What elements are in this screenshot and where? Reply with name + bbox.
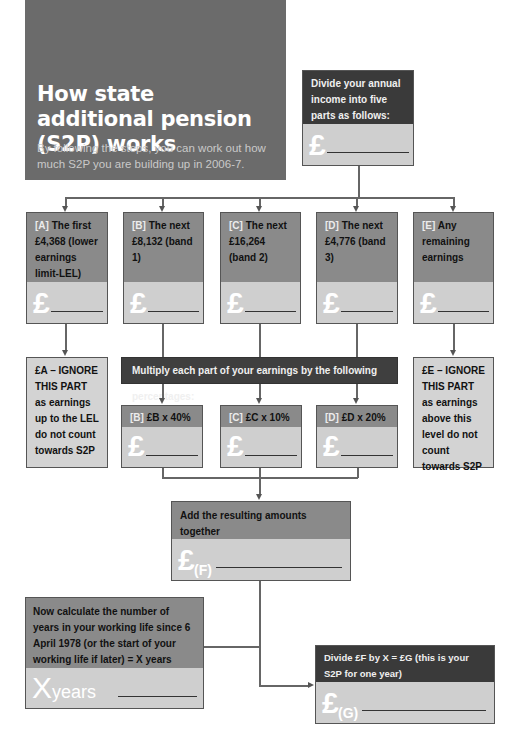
arrow-right-icon (308, 682, 314, 688)
calc-tag: [B] (130, 412, 144, 423)
pound-icon: £ (323, 288, 340, 318)
pound-icon: £ (33, 288, 50, 318)
part-c-box: [C] The next £16,264 (band 2) £ (220, 212, 301, 324)
part-a-box: [A] The first £4,368 (lower earnings lim… (26, 212, 108, 324)
connector (162, 384, 164, 399)
connector (453, 324, 455, 351)
connector (356, 384, 358, 399)
pound-icon: £ (322, 688, 339, 718)
calc-c-box: [C] £C x 10% = £ (220, 405, 302, 468)
ignore-e-note: £E – IGNORE THIS PART as earnings above … (413, 357, 494, 468)
part-tag: [B] (132, 220, 146, 231)
part-tag: [C] (229, 220, 243, 231)
pound-icon: £ (227, 288, 244, 318)
arrow-down-icon (256, 494, 262, 500)
x-symbol: X (32, 673, 52, 703)
arrow-down-icon (450, 350, 456, 356)
part-tag: [D] (325, 220, 339, 231)
sum-label: (F) (194, 555, 212, 581)
part-c-field[interactable] (245, 311, 296, 312)
connector (259, 324, 261, 357)
sum-f-field[interactable] (216, 567, 342, 568)
pound-icon: £ (178, 545, 195, 575)
result-g-field[interactable] (362, 710, 486, 711)
pound-icon: £ (128, 431, 145, 461)
page-subtitle: By following the steps, you can work out… (37, 140, 277, 172)
arrow-down-icon (62, 350, 68, 356)
ignore-a-note: £A – IGNORE THIS PART as earnings up to … (26, 357, 108, 468)
pound-icon: £ (309, 130, 326, 160)
divide-income-box: Divide your annual income into five part… (302, 70, 414, 166)
connector (259, 685, 309, 687)
calc-d-box: [D] £D x 20% = £ (316, 405, 398, 468)
connector (259, 384, 261, 399)
pound-icon: £ (227, 431, 244, 461)
pound-icon: £ (130, 288, 147, 318)
pound-icon: £ (323, 431, 340, 461)
calc-b-field[interactable] (146, 455, 198, 456)
part-b-field[interactable] (148, 311, 199, 312)
calc-d-field[interactable] (341, 455, 393, 456)
annual-income-field[interactable] (327, 152, 409, 153)
years-instruction: Now calculate the number of years in you… (26, 598, 203, 670)
arrow-down-icon (256, 398, 262, 404)
connector (162, 324, 164, 357)
calc-c-field[interactable] (245, 455, 297, 456)
connector (259, 468, 261, 495)
arrow-down-icon (159, 398, 165, 404)
part-d-box: [D] The next £4,776 (band 3) £ (316, 212, 398, 324)
connector (259, 581, 261, 686)
sum-instruction: Add the resulting amounts together (180, 508, 342, 540)
part-tag: [A] (35, 220, 49, 231)
part-tag: [E] (422, 220, 435, 231)
part-b-box: [B] The next £8,132 (band 1) £ (123, 212, 204, 324)
pound-icon: £ (420, 288, 437, 318)
sum-box: Add the resulting amounts together £b + … (171, 501, 351, 581)
header-panel: How state additional pension (S2P) works… (25, 0, 286, 180)
result-label: (G) (338, 698, 358, 724)
arrow-down-icon (353, 398, 359, 404)
years-field[interactable] (118, 696, 197, 697)
connector (65, 324, 67, 351)
connector (356, 324, 358, 357)
years-label: years (52, 677, 96, 707)
result-instruction: Divide £F by X = £G (this is your S2P fo… (316, 646, 494, 684)
years-box: Now calculate the number of years in you… (25, 597, 204, 709)
connector (358, 166, 360, 197)
part-e-field[interactable] (438, 311, 489, 312)
part-e-box: [E] Any remaining earnings £ (413, 212, 494, 324)
connector (203, 646, 260, 648)
calc-b-box: [B] £B x 40% = £ (121, 405, 203, 468)
result-box: Divide £F by X = £G (this is your S2P fo… (315, 645, 495, 724)
part-a-field[interactable] (51, 311, 103, 312)
divide-instruction: Divide your annual income into five part… (303, 71, 413, 126)
calc-tag: [C] (229, 412, 243, 423)
multiply-instruction-bar: Multiply each part of your earnings by t… (121, 357, 398, 384)
part-d-field[interactable] (341, 311, 393, 312)
calc-tag: [D] (325, 412, 339, 423)
